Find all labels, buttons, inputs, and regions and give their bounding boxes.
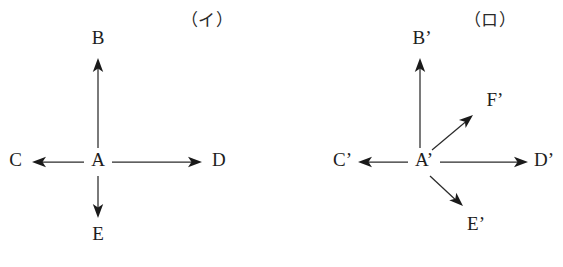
vector-d: D — [112, 149, 226, 170]
vector-e-prime-shaft — [430, 176, 459, 203]
panel-ro-origin-label: A’ — [415, 149, 433, 170]
vector-f-prime: F’ — [432, 89, 503, 150]
vector-b-prime: B’ — [413, 27, 432, 148]
vector-e: E — [92, 176, 104, 244]
vector-f-prime-shaft — [432, 119, 469, 150]
vector-d-label: D — [212, 149, 226, 170]
vector-e-label: E — [92, 223, 104, 244]
vector-diagram-canvas: （イ）BCDEA（ロ）B’C’D’E’F’A’ — [0, 0, 563, 267]
vector-d-prime-label: D’ — [534, 149, 554, 170]
panel-ro: （ロ）B’C’D’E’F’A’ — [333, 11, 554, 234]
vector-b: B — [92, 27, 105, 148]
vector-e-prime-arrowhead — [449, 193, 466, 210]
panel-i-caption: （イ） — [181, 11, 234, 30]
vector-d-prime: D’ — [440, 149, 554, 170]
figure-root: （イ）BCDEA（ロ）B’C’D’E’F’A’ — [0, 0, 563, 267]
vector-f-prime-label: F’ — [487, 89, 504, 110]
vector-c-prime-label: C’ — [333, 149, 352, 170]
vector-e-prime: E’ — [430, 176, 485, 234]
panel-i-origin-label: A — [91, 149, 105, 170]
vector-b-prime-label: B’ — [413, 27, 432, 48]
vector-c: C — [9, 149, 84, 170]
vector-b-label: B — [92, 27, 105, 48]
vector-c-prime: C’ — [333, 149, 408, 170]
panel-ro-caption: （ロ） — [464, 11, 517, 30]
vector-e-prime-label: E’ — [467, 213, 485, 234]
vector-c-label: C — [9, 149, 22, 170]
panel-i: （イ）BCDEA — [9, 11, 233, 244]
